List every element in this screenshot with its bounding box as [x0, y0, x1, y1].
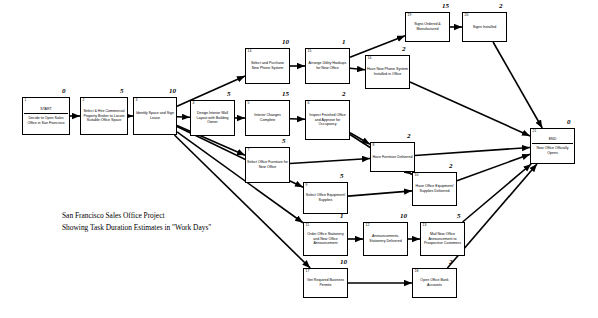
- task-node-label-body: New Office Officially Opens: [532, 146, 573, 155]
- task-node-19[interactable]: 19Signs Ordered & Manufactured: [405, 12, 450, 42]
- task-node-label: Arrange Utility Hookups for New Office: [306, 61, 349, 70]
- task-node-label: Design Interior Wall Layout with Buildin…: [191, 111, 234, 125]
- task-node-id: 2: [83, 98, 85, 102]
- task-node-id: 10: [415, 173, 419, 177]
- task-node-5[interactable]: 5Interior Changes Complete: [245, 100, 290, 136]
- task-node-label: STARTDecide to Open Sales Office in San …: [23, 107, 69, 126]
- edge-10-to-21: [457, 154, 530, 181]
- task-node-id: 8: [373, 143, 375, 147]
- task-duration-1: 0: [62, 87, 66, 95]
- task-node-id: 20: [465, 13, 469, 17]
- task-node-id: 21: [533, 129, 537, 133]
- task-node-6[interactable]: 6Inspect Finished Office and Approve for…: [305, 100, 350, 140]
- task-duration-6: 2: [342, 90, 346, 98]
- task-node-14[interactable]: 14Select and Purchase New Phone System: [245, 48, 290, 84]
- task-node-label: Have New Phone System Installed in Offic…: [366, 67, 409, 76]
- task-node-id: 3: [136, 98, 138, 102]
- task-duration-18: 2: [449, 258, 453, 266]
- task-node-id: 1: [25, 98, 27, 102]
- task-node-id: 9: [306, 183, 308, 187]
- task-duration-2: 5: [120, 87, 124, 95]
- edge-7-to-8: [290, 158, 370, 163]
- task-node-id: 13: [423, 223, 427, 227]
- task-node-label: Signs Ordered & Manufactured: [406, 22, 449, 31]
- task-node-id: 19: [408, 13, 412, 17]
- task-duration-20: 2: [499, 2, 503, 10]
- task-duration-11: 1: [340, 212, 344, 220]
- task-node-label: Select and Purchase New Phone System: [246, 61, 289, 70]
- task-node-12[interactable]: 12Announcements, Stationery Delivered: [363, 222, 408, 256]
- task-node-label: Identify Space and Sign Lease: [134, 111, 176, 120]
- edge-15-to-19: [350, 36, 405, 57]
- task-duration-19: 15: [442, 2, 449, 10]
- task-node-label: Interior Changes Complete: [246, 113, 289, 122]
- task-node-3[interactable]: 3Identify Space and Sign Lease: [133, 97, 177, 135]
- task-duration-4: 5: [227, 90, 231, 98]
- task-node-id: 7: [248, 148, 250, 152]
- edge-16-to-21: [410, 82, 530, 136]
- task-node-15[interactable]: 15Arrange Utility Hookups for New Office: [305, 48, 350, 84]
- edge-layer: [0, 0, 598, 318]
- edge-6-to-8: [350, 133, 370, 144]
- task-node-id: 6: [308, 101, 310, 105]
- diagram-caption-line-2: Showing Task Duration Estimates in "Work…: [62, 222, 211, 233]
- task-node-id: 15: [308, 49, 312, 53]
- task-node-label: Order Office Stationery and New Office A…: [304, 232, 347, 246]
- task-node-id: 12: [366, 223, 370, 227]
- task-node-label: Get Required Business Permits: [304, 278, 347, 287]
- task-duration-8: 2: [407, 132, 411, 140]
- task-node-17[interactable]: 17Get Required Business Permits: [303, 268, 348, 298]
- task-node-16[interactable]: 16Have New Phone System Installed in Off…: [365, 55, 410, 89]
- task-duration-14: 10: [282, 38, 289, 46]
- edge-13-to-21: [463, 164, 532, 222]
- task-node-label-body: Decide to Open Sales Office in San Franc…: [24, 116, 68, 125]
- task-node-id: 17: [306, 269, 310, 273]
- task-duration-7: 5: [282, 137, 286, 145]
- task-node-13[interactable]: 13Mail New Office Announcement to Prospe…: [420, 222, 465, 256]
- task-node-id: 4: [193, 101, 195, 105]
- task-node-11[interactable]: 11Order Office Stationery and New Office…: [303, 222, 348, 256]
- task-node-20[interactable]: 20Signs Installed: [462, 12, 507, 42]
- task-node-1[interactable]: 1STARTDecide to Open Sales Office in San…: [22, 97, 70, 135]
- task-node-label: ENDNew Office Officially Opens: [531, 137, 574, 156]
- task-node-label: Announcements, Stationery Delivered: [364, 234, 407, 243]
- task-node-label: Have Furniture Delivered: [372, 155, 414, 160]
- task-node-7[interactable]: 7Select Office Furniture for New Office: [245, 147, 290, 183]
- task-node-9[interactable]: 9Select Office Equipment/ Supplies: [303, 182, 348, 214]
- task-node-2[interactable]: 2Select & Hire Commercial Property Broke…: [80, 97, 128, 135]
- edge-20-to-21: [493, 42, 542, 128]
- edge-5-to-6: [290, 119, 305, 120]
- task-node-label: Select Office Equipment/ Supplies: [304, 193, 347, 202]
- task-node-id: 18: [415, 269, 419, 273]
- task-node-21[interactable]: 21ENDNew Office Officially Opens: [530, 128, 575, 164]
- task-duration-17: 10: [340, 258, 347, 266]
- task-node-label: Open Office Bank Accounts: [413, 278, 456, 287]
- edge-9-to-10: [348, 191, 412, 196]
- task-node-id: 5: [248, 101, 250, 105]
- task-duration-9: 5: [340, 172, 344, 180]
- edge-8-to-21: [415, 148, 530, 156]
- task-duration-12: 10: [400, 212, 407, 220]
- diagram-caption-line-1: San Francisco Sales Office Project: [62, 210, 164, 221]
- network-diagram-canvas: 1STARTDecide to Open Sales Office in San…: [0, 0, 598, 318]
- task-duration-15: 1: [342, 38, 346, 46]
- task-duration-13: 5: [457, 212, 461, 220]
- task-node-4[interactable]: 4Design Interior Wall Layout with Buildi…: [190, 100, 235, 136]
- task-node-18[interactable]: 18Open Office Bank Accounts: [412, 268, 457, 298]
- task-node-8[interactable]: 8Have Furniture Delivered: [370, 142, 415, 172]
- task-duration-21: 0: [567, 118, 571, 126]
- task-node-label-heading: END: [532, 137, 573, 145]
- task-duration-10: 2: [449, 162, 453, 170]
- task-node-10[interactable]: 10Have Office Equipment/ Supplies Delive…: [412, 172, 457, 206]
- task-duration-16: 2: [402, 45, 406, 53]
- task-node-label: Inspect Finished Office and Approve for …: [306, 113, 349, 127]
- task-node-label: Select Office Furniture for New Office: [246, 160, 289, 169]
- task-duration-3: 10: [169, 87, 176, 95]
- task-node-label: Mail New Office Announcement to Prospect…: [421, 232, 464, 246]
- task-duration-5: 15: [282, 90, 289, 98]
- edge-15-to-16: [350, 68, 365, 70]
- task-node-label: Signs Installed: [472, 25, 497, 30]
- task-node-id: 14: [248, 49, 252, 53]
- task-node-label-heading: START: [24, 107, 68, 115]
- task-node-label: Select & Hire Commercial Property Broker…: [81, 109, 127, 123]
